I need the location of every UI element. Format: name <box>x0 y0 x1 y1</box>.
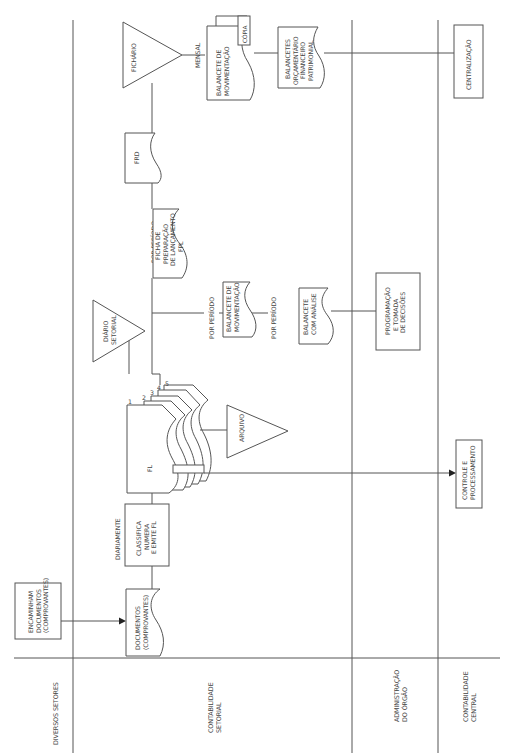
svg-text:DIARIAMENTE: DIARIAMENTE <box>114 518 121 560</box>
svg-text:ENCAMINHAM: ENCAMINHAM <box>27 591 34 633</box>
svg-text:SETORIAL: SETORIAL <box>110 315 117 345</box>
svg-text:BALANCETE: BALANCETE <box>302 299 309 335</box>
annotation-mensal: MENSAL <box>194 42 201 68</box>
svg-text:DOCUMENTOS: DOCUMENTOS <box>134 606 141 650</box>
flowchart-diagram: DIVERSOS SETORES CONTABILIDADE SETORIAL … <box>0 0 512 753</box>
svg-text:FICHA DE: FICHA DE <box>154 231 161 260</box>
diario-setorial-triangle <box>93 300 145 362</box>
arrow-head-icon <box>119 618 126 625</box>
svg-text:COM ANÁLISE: COM ANÁLISE <box>310 293 317 335</box>
svg-text:(COMPROVANTES): (COMPROVANTES) <box>42 578 49 633</box>
fl-copy-number-5: 5 <box>165 380 169 387</box>
svg-text:E EMITE FL: E EMITE FL <box>150 521 157 554</box>
annotation-por-periodo-2: POR PERÍODO <box>270 297 277 339</box>
svg-text:DIÁRIO: DIÁRIO <box>102 321 109 342</box>
lane-label-central: CONTABILIDADE CENTRAL <box>462 671 478 722</box>
svg-text:DIVERSOS SETORES: DIVERSOS SETORES <box>52 682 60 745</box>
fichario-label: FICHÁRIO <box>130 43 137 72</box>
arquivo-label: ARQUIVO <box>238 414 245 442</box>
svg-text:DOCUMENTOS: DOCUMENTOS <box>35 589 42 633</box>
lane-label-setorial: CONTABILIDADE SETORIAL <box>207 682 223 733</box>
svg-text:PATRIMONIAL: PATRIMONIAL <box>307 40 314 81</box>
lane-label-admin: ADMINISTRAÇÃO DO ÓRGÃO <box>393 670 409 722</box>
svg-text:MOVIMENTAÇÃO: MOVIMENTAÇÃO <box>223 46 231 96</box>
svg-text:POR PERÍODO: POR PERÍODO <box>270 297 277 339</box>
fl-label: FL <box>146 465 153 472</box>
annotation-por-periodo-1: POR PERÍODO <box>208 297 215 339</box>
svg-text:DE DECISÕES: DE DECISÕES <box>399 292 406 333</box>
fl-copy-number-2: 2 <box>142 394 146 401</box>
svg-text:FICHÁRIO: FICHÁRIO <box>130 43 137 72</box>
svg-text:BALANCETES: BALANCETES <box>284 39 291 79</box>
svg-text:BALANCETE DE: BALANCETE DE <box>225 286 232 332</box>
svg-text:E TOMADA: E TOMADA <box>392 298 399 331</box>
frd-label: FRD <box>133 151 140 164</box>
balancete-mov-label: BALANCETE DE MOVIMENTAÇÃO <box>225 282 241 332</box>
balancetes-orc-label: BALANCETES ORÇAMENTÁRIO FINANCEIRO PATRI… <box>284 36 314 85</box>
svg-text:ADMINISTRAÇÃO: ADMINISTRAÇÃO <box>393 670 401 722</box>
balancete-mensal-label: BALANCETE DE MOVIMENTAÇÃO <box>215 46 231 96</box>
connector-fl-trunk <box>152 278 160 385</box>
fl-tab <box>173 465 204 473</box>
balancete-analise-label: BALANCETE COM ANÁLISE <box>302 293 317 335</box>
svg-text:CLASSIFICA: CLASSIFICA <box>135 520 142 556</box>
svg-text:DO ÓRGÃO: DO ÓRGÃO <box>401 687 409 722</box>
svg-text:CENTRAL: CENTRAL <box>470 693 478 722</box>
svg-text:CENTRALIZAÇÃO: CENTRALIZAÇÃO <box>465 39 473 90</box>
fl-copy-number-1: 1 <box>128 398 132 405</box>
frd-document <box>125 133 161 183</box>
svg-text:CONTABILIDADE: CONTABILIDADE <box>462 671 470 722</box>
fl-copy-number-4: 4 <box>157 384 161 391</box>
svg-text:ARQUIVO: ARQUIVO <box>238 414 245 442</box>
svg-text:NUMERA: NUMERA <box>143 523 150 550</box>
centralizacao-label: CENTRALIZAÇÃO <box>465 39 473 90</box>
svg-text:FPL: FPL <box>177 241 184 252</box>
svg-text:BALANCETE DE: BALANCETE DE <box>215 50 222 96</box>
arrow-head-icon <box>449 470 456 477</box>
svg-text:DE LANÇAMENTO: DE LANÇAMENTO <box>169 213 177 266</box>
svg-text:PROCESSAMENTO: PROCESSAMENTO <box>469 445 476 500</box>
svg-text:MOVIMENTAÇÃO: MOVIMENTAÇÃO <box>233 282 241 332</box>
svg-text:FRD: FRD <box>133 151 140 164</box>
svg-text:POR PERÍODO: POR PERÍODO <box>208 297 215 339</box>
svg-text:(COMPROVANTES): (COMPROVANTES) <box>142 595 149 650</box>
copia-label: CÓPIA <box>241 26 248 43</box>
svg-text:FINANCEIRO: FINANCEIRO <box>299 42 306 79</box>
svg-text:MENSAL: MENSAL <box>194 42 201 68</box>
svg-text:SETORIAL: SETORIAL <box>215 702 223 733</box>
fl-copy-number-3: 3 <box>150 389 154 396</box>
classifica-label: CLASSIFICA NUMERA E EMITE FL <box>135 520 157 556</box>
svg-text:CÓPIA: CÓPIA <box>241 26 248 43</box>
svg-text:CONTABILIDADE: CONTABILIDADE <box>207 682 215 733</box>
lane-label-diversos: DIVERSOS SETORES <box>52 682 60 745</box>
svg-text:FL: FL <box>146 465 153 472</box>
arquivo-triangle <box>227 405 288 458</box>
svg-text:CONTROLE E: CONTROLE E <box>461 461 468 500</box>
annotation-diariamente: DIARIAMENTE <box>114 518 121 560</box>
